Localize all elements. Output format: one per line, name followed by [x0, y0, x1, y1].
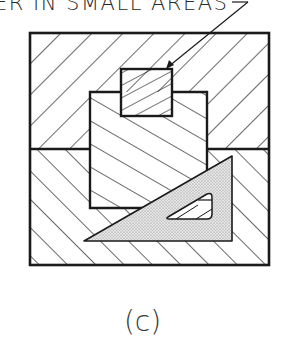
section-drawing [0, 0, 285, 342]
figure-label: (c) [0, 305, 285, 338]
small-insert [121, 69, 172, 116]
